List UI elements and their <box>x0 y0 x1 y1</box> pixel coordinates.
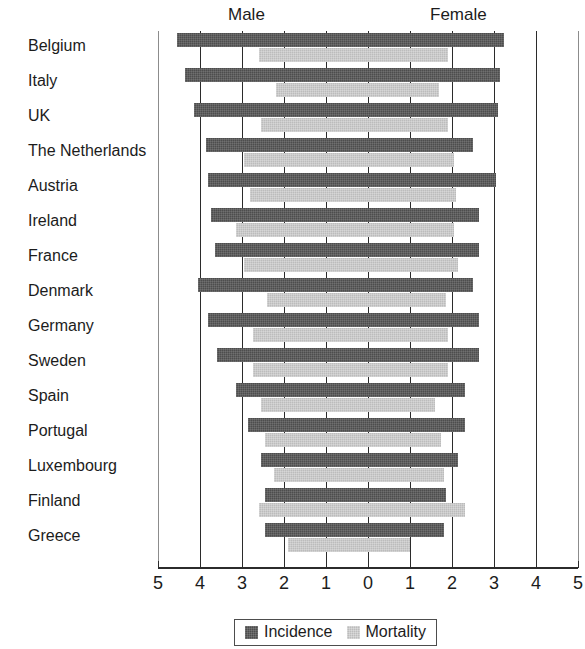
axis-tick-label: 5 <box>565 572 585 594</box>
country-label: The Netherlands <box>28 142 146 160</box>
bar-incidence <box>261 453 458 467</box>
axis-tick <box>368 561 369 568</box>
bar-mortality <box>274 468 444 482</box>
axis-tick-label: 2 <box>271 572 297 594</box>
country-label: Sweden <box>28 352 86 370</box>
axis-tick-label: 4 <box>187 572 213 594</box>
country-label: Spain <box>28 387 69 405</box>
chart-row <box>158 101 578 136</box>
bar-incidence <box>215 243 480 257</box>
bar-incidence <box>211 208 480 222</box>
chart-row <box>158 206 578 241</box>
bar-incidence <box>217 348 480 362</box>
bar-incidence <box>265 488 446 502</box>
bar-mortality <box>253 363 448 377</box>
bar-mortality <box>261 398 435 412</box>
country-label: Austria <box>28 177 78 195</box>
axis-tick <box>326 561 327 568</box>
legend-label-mortality: Mortality <box>366 623 426 641</box>
chart-row <box>158 346 578 381</box>
axis-tick-label: 5 <box>145 572 171 594</box>
chart-row <box>158 486 578 521</box>
axis-tick <box>284 561 285 568</box>
bar-incidence <box>177 33 505 47</box>
bar-incidence <box>198 278 473 292</box>
bar-mortality <box>288 538 410 552</box>
chart-row <box>158 241 578 276</box>
country-label: Portugal <box>28 422 88 440</box>
chart-row <box>158 136 578 171</box>
country-label: Italy <box>28 72 57 90</box>
bar-mortality <box>244 153 454 167</box>
legend-label-incidence: Incidence <box>264 623 333 641</box>
axis-tick-label: 4 <box>523 572 549 594</box>
bar-mortality <box>236 223 454 237</box>
axis-tick-label: 0 <box>355 572 381 594</box>
axis-tick <box>158 561 159 568</box>
country-label: Ireland <box>28 212 77 230</box>
chart-row <box>158 31 578 66</box>
bar-incidence <box>208 173 496 187</box>
axis-tick-label: 1 <box>397 572 423 594</box>
bar-mortality <box>244 258 458 272</box>
legend-entry-incidence: Incidence <box>245 623 333 641</box>
bar-mortality <box>261 118 448 132</box>
plot-area <box>158 31 578 567</box>
chart-row <box>158 416 578 451</box>
country-label: Greece <box>28 527 80 545</box>
cancer-incidence-mortality-chart: Male Female BelgiumItalyUKThe Netherland… <box>0 0 585 649</box>
axis-tick <box>200 561 201 568</box>
axis-tick <box>578 561 579 568</box>
axis-tick <box>452 561 453 568</box>
chart-row <box>158 451 578 486</box>
chart-row <box>158 521 578 556</box>
country-label: UK <box>28 107 50 125</box>
legend: Incidence Mortality <box>234 619 437 646</box>
bar-incidence <box>265 523 444 537</box>
bar-incidence <box>208 313 479 327</box>
bar-incidence <box>185 68 500 82</box>
chart-row <box>158 276 578 311</box>
bar-mortality <box>265 433 441 447</box>
mortality-swatch-icon <box>347 626 360 639</box>
axis-tick-label: 3 <box>481 572 507 594</box>
axis-tick <box>494 561 495 568</box>
incidence-swatch-icon <box>245 626 258 639</box>
legend-entry-mortality: Mortality <box>347 623 426 641</box>
bar-incidence <box>236 383 465 397</box>
country-label: Belgium <box>28 37 86 55</box>
country-label: Germany <box>28 317 94 335</box>
country-label: Luxembourg <box>28 457 117 475</box>
country-label: Denmark <box>28 282 93 300</box>
axis-tick-label: 2 <box>439 572 465 594</box>
chart-row <box>158 171 578 206</box>
bar-incidence <box>194 103 499 117</box>
axis-tick <box>410 561 411 568</box>
bar-mortality <box>259 48 448 62</box>
bar-incidence <box>248 418 464 432</box>
male-group-heading: Male <box>228 5 265 25</box>
bar-mortality <box>253 328 448 342</box>
chart-row <box>158 311 578 346</box>
chart-row <box>158 66 578 101</box>
gridline <box>578 31 579 567</box>
chart-row <box>158 381 578 416</box>
axis-tick <box>536 561 537 568</box>
bar-mortality <box>276 83 440 97</box>
bar-incidence <box>206 138 473 152</box>
country-label: France <box>28 247 78 265</box>
bar-mortality <box>259 503 465 517</box>
axis-tick <box>242 561 243 568</box>
country-label: Finland <box>28 492 80 510</box>
bar-mortality <box>267 293 446 307</box>
axis-tick-label: 3 <box>229 572 255 594</box>
bar-mortality <box>250 188 456 202</box>
axis-tick-label: 1 <box>313 572 339 594</box>
female-group-heading: Female <box>430 5 487 25</box>
